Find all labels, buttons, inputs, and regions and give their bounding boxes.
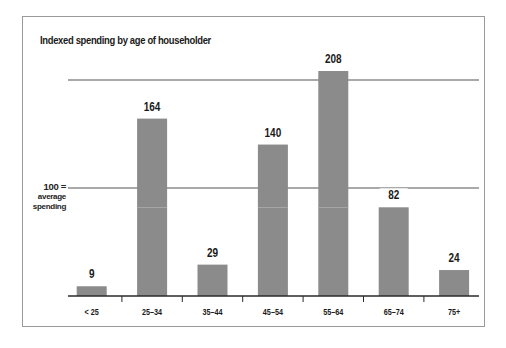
data-label: 82 (388, 188, 399, 201)
data-label: 140 (265, 126, 282, 139)
bar-chart: 9< 2516425–342935–4414045–5420855–648265… (0, 0, 506, 348)
x-axis-tick-label: 55–64 (323, 307, 344, 317)
x-axis-tick-label: < 25 (85, 307, 100, 317)
data-label: 208 (325, 52, 342, 65)
bar-3 (198, 265, 228, 296)
data-label: 164 (144, 100, 161, 113)
bar-1 (77, 286, 107, 296)
x-axis-tick-label: 35–44 (202, 307, 223, 317)
bar-6 (379, 207, 409, 296)
data-label: 9 (89, 267, 95, 280)
x-axis-tick-label: 65–74 (384, 307, 405, 317)
bar-7 (439, 270, 469, 296)
x-axis-tick-label: 75+ (448, 307, 461, 317)
bar-4 (258, 145, 288, 296)
x-axis-tick-label: 45–54 (263, 307, 284, 317)
bar-5 (318, 71, 348, 296)
data-label: 29 (207, 246, 218, 259)
x-axis-tick-label: 25–34 (142, 307, 163, 317)
data-label: 24 (449, 251, 461, 264)
